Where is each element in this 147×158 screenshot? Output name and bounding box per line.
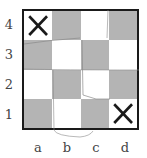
cell-b2: [52, 70, 80, 99]
cell-b3: [52, 40, 80, 69]
checkerboard-grid: [22, 9, 139, 130]
cell-b4: [52, 11, 80, 40]
cell-a3: [24, 40, 52, 69]
file-label-a: a: [28, 140, 48, 155]
rank-label-4: 4: [3, 17, 15, 32]
cell-c1: [81, 99, 109, 128]
x-mark-icon: [112, 102, 134, 125]
rank-label-1: 1: [3, 107, 15, 122]
cell-b1: [52, 99, 80, 128]
x-mark-icon: [27, 14, 49, 37]
rank-label-2: 2: [3, 77, 15, 92]
cell-d1: [109, 99, 137, 128]
cell-a2: [24, 70, 52, 99]
cell-d3: [109, 40, 137, 69]
cell-c4: [81, 11, 109, 40]
cell-c3: [81, 40, 109, 69]
cell-a1: [24, 99, 52, 128]
cell-d2: [109, 70, 137, 99]
cell-c2: [81, 70, 109, 99]
file-label-b: b: [57, 140, 77, 155]
file-label-d: d: [115, 140, 135, 155]
rank-label-3: 3: [3, 47, 15, 62]
cell-a4: [24, 11, 52, 40]
cell-d4: [109, 11, 137, 40]
file-label-c: c: [86, 140, 106, 155]
